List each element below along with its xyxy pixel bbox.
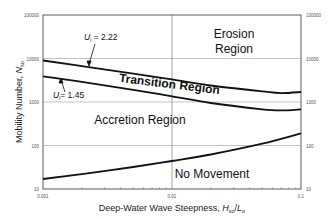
y-right-tick-100000: 100000 bbox=[306, 13, 322, 18]
y-tick-100: 100 bbox=[31, 144, 39, 149]
x-axis-label: Deep-Water Wave Steepness, Hso/Lo bbox=[99, 203, 245, 214]
y-axis-right-ticks: 100000 10000 1000 100 10 bbox=[306, 13, 322, 192]
y-tick-100000: 100000 bbox=[24, 13, 40, 18]
chart-canvas: 100000 10000 1000 100 10 100000 10000 10… bbox=[0, 0, 334, 219]
y-axis-label: Mobility Number, Nso bbox=[14, 61, 25, 143]
x-axis-ticks: 0.001 0.01 0.1 bbox=[37, 194, 304, 199]
label-erosion-region-line1: Erosion bbox=[214, 27, 255, 41]
y-tick-10000: 10000 bbox=[26, 57, 39, 62]
y-tick-10: 10 bbox=[34, 187, 40, 192]
y-right-tick-1000: 1000 bbox=[306, 100, 317, 105]
y-right-tick-10: 10 bbox=[306, 187, 312, 192]
y-axis-left-ticks: 100000 10000 1000 100 10 bbox=[24, 13, 40, 192]
y-right-tick-100: 100 bbox=[306, 144, 314, 149]
x-tick-0-01: 0.01 bbox=[168, 194, 177, 199]
label-erosion-region-line2: Region bbox=[215, 42, 253, 56]
y-right-tick-10000: 10000 bbox=[306, 57, 319, 62]
label-ui-2-22: Ui = 2.22 bbox=[84, 32, 118, 43]
y-tick-1000: 1000 bbox=[29, 100, 40, 105]
x-tick-0-1: 0.1 bbox=[298, 194, 305, 199]
x-tick-0-001: 0.001 bbox=[37, 194, 49, 199]
label-accretion-region: Accretion Region bbox=[94, 113, 185, 127]
label-no-movement: No Movement bbox=[175, 167, 250, 181]
label-ui-1-45: Ui= 1.45 bbox=[53, 90, 84, 101]
